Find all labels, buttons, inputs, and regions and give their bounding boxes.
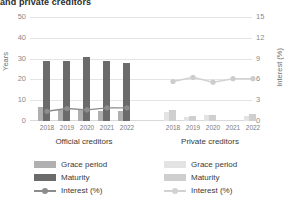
y-axis-label-left: Years (2, 52, 10, 71)
panel-private-creditors (160, 17, 260, 121)
interest-line-official (34, 17, 134, 121)
legend-official: Grace periodMaturityInterest (%) (34, 158, 164, 197)
legend-swatch-icon (164, 174, 186, 181)
interest-point[interactable] (124, 105, 129, 110)
y-axis-label-right: Interest (%) (276, 48, 284, 87)
y-tick-left: 50 (10, 13, 26, 21)
x-tick-label: 2021 (96, 124, 118, 132)
y-tick-left: 0 (10, 117, 26, 125)
legend-line-icon (164, 186, 186, 195)
x-tick-label: 2022 (242, 124, 264, 132)
interest-point[interactable] (44, 109, 49, 114)
legend-label: Maturity (61, 173, 89, 182)
legend-item[interactable]: Grace period (34, 158, 164, 171)
legend-label: Maturity (191, 173, 219, 182)
interest-point[interactable] (64, 106, 69, 111)
x-tick-label: 2019 (182, 124, 204, 132)
x-tick-label: 2022 (116, 124, 138, 132)
legend-label: Interest (%) (191, 186, 232, 195)
legend-private: Grace periodMaturityInterest (%) (164, 158, 292, 197)
chart-root: and private creditors Years Interest (%)… (0, 0, 292, 205)
interest-point[interactable] (104, 105, 109, 110)
interest-line-private (160, 17, 260, 121)
legend-item[interactable]: Interest (%) (164, 184, 292, 197)
interest-point[interactable] (230, 76, 235, 81)
x-tick-label: 2020 (76, 124, 98, 132)
legend-line-icon (34, 186, 56, 195)
x-tick-label: 2021 (222, 124, 244, 132)
legend-swatch-icon (164, 161, 186, 168)
legend-swatch-icon (34, 161, 56, 168)
y-tick-left: 10 (10, 96, 26, 104)
y-tick-left: 20 (10, 75, 26, 83)
chart-title: and private creditors (0, 0, 292, 8)
panel-caption-official: Official creditors (34, 137, 134, 147)
y-tick-left: 40 (10, 34, 26, 42)
x-tick-label: 2020 (202, 124, 224, 132)
plot-area: 01020304050 03691215 (30, 17, 252, 121)
legend-label: Interest (%) (61, 186, 102, 195)
legend-item[interactable]: Grace period (164, 158, 292, 171)
x-tick-label: 2018 (36, 124, 58, 132)
x-tick-label: 2019 (56, 124, 78, 132)
legend-item[interactable]: Maturity (34, 171, 164, 184)
interest-point[interactable] (250, 76, 255, 81)
y-tick-left: 30 (10, 55, 26, 63)
legend-label: Grace period (61, 160, 107, 169)
x-tick-label: 2018 (162, 124, 184, 132)
interest-point[interactable] (210, 80, 215, 85)
legend-swatch-icon (34, 174, 56, 181)
legend-item[interactable]: Maturity (164, 171, 292, 184)
interest-point[interactable] (190, 75, 195, 80)
interest-point[interactable] (84, 107, 89, 112)
panel-official-creditors (34, 17, 134, 121)
interest-point[interactable] (170, 79, 175, 84)
legend-item[interactable]: Interest (%) (34, 184, 164, 197)
legend-label: Grace period (191, 160, 237, 169)
panel-caption-private: Private creditors (160, 137, 260, 147)
